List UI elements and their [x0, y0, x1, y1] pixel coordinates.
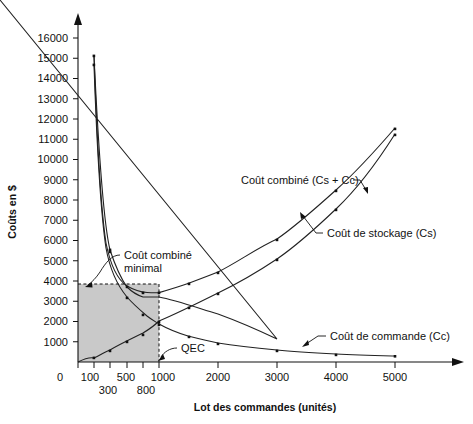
data-point [188, 283, 191, 286]
y-tick-label: 6000 [44, 234, 68, 246]
y-axis-tick-labels: 1000 2000 3000 4000 5000 6000 7000 8000 … [37, 32, 68, 348]
qec-label: QEC [181, 342, 205, 354]
y-axis-ticks [73, 38, 78, 342]
data-point [394, 355, 397, 358]
data-point [335, 209, 338, 212]
y-tick-label: 5000 [44, 255, 68, 267]
x-tick-label-100: 100 [81, 371, 99, 383]
data-point [335, 190, 338, 193]
x-tick-label-4000: 4000 [324, 371, 348, 383]
x-tick-label-5000: 5000 [383, 371, 407, 383]
y-tick-label: 2000 [44, 315, 68, 327]
data-point [217, 272, 220, 275]
storage-curve-label: Coût de stockage (Cs) [327, 227, 436, 239]
data-point [109, 249, 112, 252]
order-curve-arrow [302, 340, 309, 347]
x-axis-ticks [78, 362, 395, 368]
data-point [335, 354, 338, 357]
data-point [394, 134, 397, 137]
data-point [188, 336, 191, 339]
y-tick-label: 10000 [37, 153, 68, 165]
annotation-qec: QEC [158, 342, 205, 361]
x-tick-label-0: 0 [57, 371, 63, 383]
chart-svg: 1000 2000 3000 4000 5000 6000 7000 8000 … [0, 0, 473, 424]
y-tick-label: 8000 [44, 194, 68, 206]
data-point [276, 259, 279, 262]
y-tick-label: 12000 [37, 113, 68, 125]
qec-shaded-region [78, 284, 159, 362]
data-point [276, 350, 279, 353]
annotation-line1: Coût combiné [124, 249, 192, 261]
y-tick-label: 7000 [44, 214, 68, 226]
data-point [142, 292, 145, 295]
x-axis-title: Lot des commandes (unités) [194, 401, 336, 413]
x-axis-tick-labels-secondary: 300 800 [99, 384, 155, 396]
x-tick-label-2000: 2000 [206, 371, 230, 383]
annotation-cout-combine-minimal: Coût combiné minimal [85, 249, 192, 288]
data-point [142, 314, 145, 317]
combined-curve-label: Coût combiné (Cs + Cc) [241, 174, 359, 186]
data-point [276, 239, 279, 242]
y-tick-label: 3000 [44, 295, 68, 307]
y-tick-label: 1000 [44, 336, 68, 348]
data-point [217, 293, 220, 296]
data-point [188, 307, 191, 310]
data-point [93, 55, 96, 58]
y-tick-label: 4000 [44, 275, 68, 287]
data-point [93, 64, 96, 67]
x-tick-label-1000: 1000 [151, 371, 175, 383]
x-axis-arrow [452, 358, 464, 366]
x-tick-label-800: 800 [137, 384, 155, 396]
y-tick-label: 13000 [37, 93, 68, 105]
data-point [126, 297, 129, 300]
y-tick-label: 11000 [38, 133, 68, 145]
annotation-cout-combine: Coût combiné (Cs + Cc) [241, 174, 368, 194]
cost-chart: 1000 2000 3000 4000 5000 6000 7000 8000 … [0, 0, 473, 424]
x-tick-label-300: 300 [99, 384, 117, 396]
x-tick-label-3000: 3000 [265, 371, 289, 383]
combined-curve-arrow [363, 187, 368, 194]
annotation-cout-commande: Coût de commande (Cc) [302, 330, 450, 347]
data-point [126, 341, 129, 344]
data-point [142, 334, 145, 337]
y-axis-title: Coûts en $ [6, 185, 18, 239]
data-point [93, 357, 96, 360]
x-tick-label-500: 500 [117, 371, 135, 383]
storage-curve-arrow [300, 212, 306, 219]
annotation-cout-stockage: Coût de stockage (Cs) [300, 212, 436, 239]
order-curve-label: Coût de commande (Cc) [330, 330, 450, 342]
data-point [126, 286, 129, 289]
y-tick-label: 16000 [37, 32, 68, 44]
y-tick-label: 15000 [37, 52, 68, 64]
x-axis-tick-labels: 0 100 500 1000 2000 3000 4000 5000 [57, 371, 407, 383]
data-point [394, 128, 397, 131]
y-tick-label: 9000 [44, 174, 68, 186]
y-axis-arrow [74, 13, 82, 25]
data-point [217, 343, 220, 346]
data-point [109, 350, 112, 353]
annotation-line2: minimal [124, 262, 162, 274]
